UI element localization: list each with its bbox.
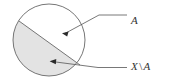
set-difference-figure: A X\A (0, 0, 175, 84)
leader-line-a (64, 15, 127, 34)
label-x-minus-a: X\A (131, 61, 151, 72)
arrowhead-a-icon (62, 31, 69, 36)
label-subset-a: A (144, 60, 151, 72)
label-a: A (131, 15, 138, 26)
